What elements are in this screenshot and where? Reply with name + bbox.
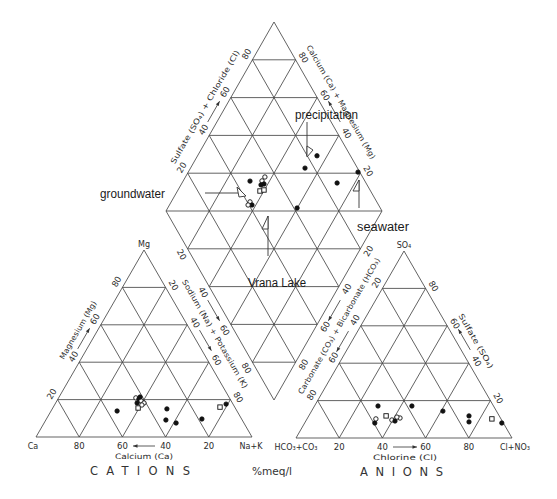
tick-label: 80: [239, 47, 253, 61]
data-point-open-circle: [374, 417, 378, 421]
tick-label: 60: [420, 442, 431, 452]
piper-diagram: 2040608020406080204060802040608020406080…: [0, 0, 557, 499]
units-label: %meq/l: [252, 466, 292, 477]
tick-label-layer: 2040608020406080204060802040608020406080…: [45, 47, 506, 452]
grid-line: [252, 60, 360, 249]
grid-line: [101, 325, 166, 437]
axis-label-calcium-magnesium: Calcium (Ca) + Magnesium (Mg): [304, 44, 377, 161]
grid-layer: [36, 22, 512, 438]
data-point-filled-circle: [467, 414, 471, 418]
tick-label: 20: [491, 391, 505, 405]
cation-vertex-ca: Ca: [28, 442, 39, 451]
annotation-label: groundwater: [100, 187, 165, 201]
data-point-filled-circle: [467, 420, 471, 424]
data-point-filled-circle: [224, 402, 228, 406]
data-point-filled-circle: [500, 421, 504, 425]
grid-line: [252, 173, 360, 362]
grid-line: [188, 173, 296, 362]
axis-label-chlorine: Chlorine (Cl): [373, 453, 437, 462]
cations-title: CATIONS: [90, 464, 190, 478]
grid-line: [188, 60, 296, 249]
data-point-open-square: [384, 414, 388, 418]
tick-label: 20: [334, 442, 345, 452]
tick-label: 40: [188, 315, 202, 329]
axis-label-sulfate-chloride: Sulfate (SO₄) + Chloride (Cl): [169, 48, 242, 165]
tick-label: 60: [210, 353, 224, 367]
arrowhead-icon: [413, 445, 418, 448]
arrowhead-icon: [216, 316, 220, 321]
data-point-open-circle: [140, 403, 144, 407]
tick-label: 40: [160, 441, 171, 451]
data-point-open-circle: [395, 415, 399, 419]
tick-label: 80: [74, 441, 85, 451]
arrowhead-icon: [262, 216, 268, 229]
axis-ticks-diamond-carbonate-bicarbonate: 20406080: [296, 244, 375, 372]
axis-ticks-sulfate: 20406080: [426, 279, 505, 406]
grid-line: [231, 98, 339, 287]
axis-ticks-sulfate-chloride: 20406080: [175, 47, 254, 175]
tick-label: 20: [361, 164, 375, 178]
data-point-filled-circle: [410, 404, 414, 408]
data-point-filled-circle: [115, 409, 119, 413]
data-point-open-square: [262, 188, 266, 192]
data-point-open-square: [218, 405, 222, 409]
grid-line: [469, 401, 491, 438]
data-point-filled-circle: [315, 154, 319, 158]
data-point-filled-circle: [248, 179, 252, 183]
annotation-label: Vrana Lake: [248, 276, 306, 290]
data-point-filled-circle: [138, 395, 142, 399]
axis-ticks-calcium: 80604020: [74, 441, 214, 451]
grid-line: [209, 135, 317, 324]
tick-label: 40: [377, 442, 388, 452]
data-point-filled-circle: [303, 166, 307, 170]
data-point-open-square: [490, 417, 494, 421]
arrowhead-icon: [458, 329, 462, 334]
anion-vertex-hco3-co3: HCO₃+CO₃: [275, 443, 318, 452]
annotation-label: precipitation: [295, 108, 358, 122]
data-point-filled-circle: [165, 407, 169, 411]
data-point-filled-circle: [295, 206, 299, 210]
arrowhead-icon: [86, 328, 90, 333]
axis-label-calcium: Calcium (Ca): [115, 452, 173, 461]
grid-line: [122, 325, 187, 437]
tick-label: 80: [426, 279, 440, 293]
tick-label: 20: [166, 278, 180, 292]
data-point-filled-circle: [259, 183, 263, 187]
axis-label-magnesium: Magnesium (Mg): [58, 299, 99, 361]
arrowhead-icon: [208, 346, 212, 351]
arrowhead-icon: [216, 101, 220, 106]
tick-label: 80: [463, 442, 474, 452]
annotation-seawater: seawater: [353, 180, 409, 234]
anion-points: [373, 404, 504, 425]
arrowhead-icon: [307, 146, 313, 157]
axis-ticks-magnesium: 20406080: [45, 274, 124, 401]
arrowhead-icon: [133, 444, 138, 447]
cation-vertex-nak: Na+K: [240, 442, 264, 451]
tick-label: 20: [203, 441, 214, 451]
data-point-filled-circle: [441, 409, 445, 413]
diamond-field: [166, 22, 382, 400]
data-point-filled-circle: [376, 404, 380, 408]
data-point-filled-circle: [356, 170, 360, 174]
data-point-filled-circle: [335, 181, 339, 185]
data-point-filled-circle: [200, 417, 204, 421]
grid-line: [318, 401, 340, 438]
grid-line: [231, 135, 339, 324]
data-point-open-square: [136, 406, 140, 410]
tick-label: 20: [175, 247, 189, 261]
anion-vertex-so4: SO₄: [397, 241, 412, 250]
grid-line: [58, 400, 80, 437]
diamond-points: [246, 154, 360, 211]
data-point-open-circle: [263, 175, 267, 179]
arrowhead-icon: [328, 101, 332, 106]
tick-label: 60: [117, 441, 128, 451]
anions-title: ANIONS: [360, 465, 443, 479]
arrowhead-icon: [237, 187, 246, 197]
data-point-filled-circle: [174, 421, 178, 425]
tick-label: 80: [109, 274, 123, 288]
data-point-filled-circle: [135, 401, 139, 405]
anion-vertex-cl-no3: Cl+NO₃: [500, 443, 530, 452]
annotation-label: seawater: [357, 220, 409, 234]
annotation-vrana-lake: Vrana Lake: [248, 216, 306, 290]
arrowhead-icon: [337, 347, 341, 352]
